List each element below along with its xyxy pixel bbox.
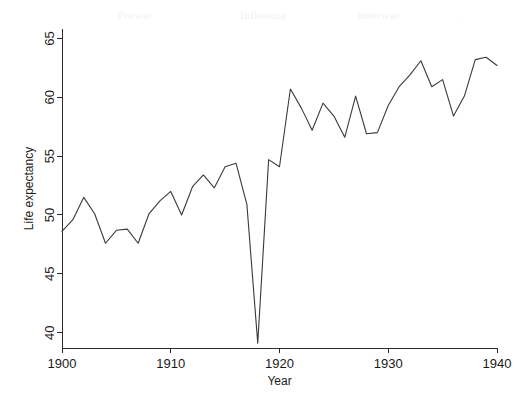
x-tick-label-1910: 1910 [156,356,185,371]
y-tick-label-40: 40 [42,325,57,339]
y-axis-tick-labels: 404550556065 [42,31,57,340]
y-tick-label-55: 55 [42,149,57,163]
y-tick-label-45: 45 [42,267,57,281]
y-tick-label-60: 60 [42,90,57,104]
figure-container: Prewar Influenza Interwar . 404550556065… [0,0,524,397]
x-tick-label-1900: 1900 [48,356,77,371]
x-axis-title: Year [267,374,291,388]
life-expectancy-series-line [62,57,497,343]
y-tick-label-65: 65 [42,31,57,45]
y-axis-ticks [57,38,62,332]
x-tick-label-1930: 1930 [374,356,403,371]
axes-group [62,29,497,348]
x-axis-ticks [62,348,497,353]
x-axis-tick-labels: 19001910192019301940 [48,356,512,371]
line-chart: 404550556065 19001910192019301940 Year L… [0,0,524,397]
x-tick-label-1920: 1920 [265,356,294,371]
y-axis-title: Life expectancy [22,147,36,230]
y-tick-label-50: 50 [42,208,57,222]
x-tick-label-1940: 1940 [483,356,512,371]
